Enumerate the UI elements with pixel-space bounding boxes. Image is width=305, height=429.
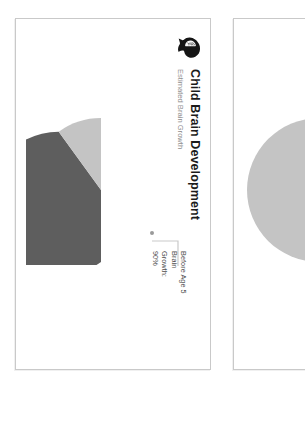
page-sheet: Child Brain Development Estimated Brain …	[0, 0, 305, 429]
chart-card-secondary[interactable]	[233, 18, 305, 370]
card-header-text: Child Brain Development Estimated Brain …	[175, 69, 202, 220]
pie-marker-dot-main	[150, 231, 154, 235]
pie-chart-secondary[interactable]	[244, 115, 305, 265]
chart-card-main[interactable]: Child Brain Development Estimated Brain …	[15, 18, 211, 370]
annotation-label: Before Age 5 Brain Growth: 90%	[150, 251, 188, 337]
pie-slice-secondary-full	[247, 118, 305, 262]
annotation-line-1: Before Age 5	[179, 251, 188, 337]
annotation-line-4: 90%	[150, 251, 159, 337]
page-title: Child Brain Development	[188, 69, 202, 220]
rotated-page-canvas: Child Brain Development Estimated Brain …	[0, 0, 305, 429]
pie-chart-secondary-svg	[244, 115, 305, 265]
brain-head-icon-svg	[176, 33, 202, 59]
page-subtitle: Estimated Brain Growth	[175, 69, 186, 220]
annotation-line-2: Brain	[169, 251, 178, 337]
brain-head-icon	[176, 33, 202, 59]
annotation-line-3: Growth:	[160, 251, 169, 337]
